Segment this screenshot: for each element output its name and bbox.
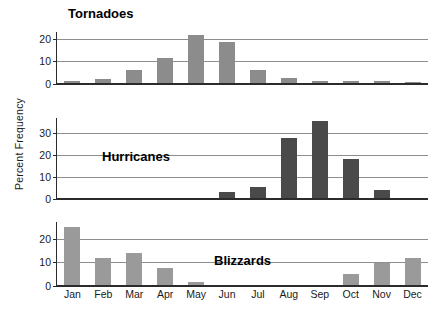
bar-hurricanes-oct xyxy=(343,159,359,200)
x-tick-dec: Dec xyxy=(403,288,422,300)
bar-blizzards-jan xyxy=(64,227,80,286)
baseline-tornadoes xyxy=(57,83,428,85)
bar-tornadoes-jun xyxy=(219,42,235,84)
bar-hurricanes-sep xyxy=(312,121,328,199)
bar-blizzards-nov xyxy=(374,263,390,286)
y-tick-hurricanes-30: 30 xyxy=(17,127,51,139)
y-tick-tornadoes-20: 20 xyxy=(17,33,51,45)
y-tick-blizzards-20: 20 xyxy=(17,233,51,245)
baseline-blizzards xyxy=(57,285,428,287)
y-tick-blizzards-0: 0 xyxy=(17,280,51,292)
bar-tornadoes-jul xyxy=(250,70,266,84)
y-tickmark-hurricanes-10 xyxy=(53,177,57,178)
gridline-hurricanes-10 xyxy=(57,177,428,178)
y-axis-line-tornadoes xyxy=(56,32,57,84)
y-tickmark-tornadoes-10 xyxy=(53,61,57,62)
y-tick-hurricanes-0: 0 xyxy=(17,193,51,205)
panel-title-tornadoes: Tornadoes xyxy=(68,6,134,21)
x-tick-feb: Feb xyxy=(94,288,112,300)
baseline-hurricanes xyxy=(57,198,428,200)
gridline-blizzards-20 xyxy=(57,239,428,240)
bar-blizzards-mar xyxy=(126,253,142,286)
y-axis-label: Percent Frequency xyxy=(13,79,25,209)
x-tick-may: May xyxy=(186,288,206,300)
y-tickmark-blizzards-10 xyxy=(53,262,57,263)
y-tick-blizzards-10: 10 xyxy=(17,256,51,268)
bar-tornadoes-may xyxy=(188,35,204,84)
y-axis-line-hurricanes xyxy=(56,118,57,199)
x-tick-nov: Nov xyxy=(372,288,391,300)
x-tick-sep: Sep xyxy=(310,288,329,300)
y-tickmark-hurricanes-30 xyxy=(53,133,57,134)
y-tickmark-blizzards-20 xyxy=(53,239,57,240)
y-tick-hurricanes-10: 10 xyxy=(17,171,51,183)
bar-tornadoes-mar xyxy=(126,70,142,84)
y-axis-line-blizzards xyxy=(56,222,57,286)
bar-tornadoes-apr xyxy=(157,58,173,84)
x-tick-oct: Oct xyxy=(343,288,359,300)
bar-hurricanes-aug xyxy=(281,138,297,199)
x-tick-mar: Mar xyxy=(125,288,143,300)
bar-blizzards-apr xyxy=(157,268,173,286)
x-tick-jan: Jan xyxy=(64,288,81,300)
x-tick-aug: Aug xyxy=(280,288,299,300)
gridline-tornadoes-10 xyxy=(57,61,428,62)
y-tick-tornadoes-0: 0 xyxy=(17,78,51,90)
panel-title-hurricanes: Hurricanes xyxy=(102,149,170,164)
bar-blizzards-dec xyxy=(405,258,421,286)
x-tick-jun: Jun xyxy=(219,288,236,300)
x-axis-month-labels: JanFebMarAprMayJunJulAugSepOctNovDec xyxy=(57,288,428,310)
y-tickmark-tornadoes-20 xyxy=(53,39,57,40)
plot-area-tornadoes: 01020 xyxy=(57,32,428,84)
y-tick-hurricanes-20: 20 xyxy=(17,149,51,161)
multi-panel-bar-chart: Percent Frequency 01020 Tornadoes 010203… xyxy=(0,0,432,315)
gridline-tornadoes-20 xyxy=(57,39,428,40)
bar-blizzards-feb xyxy=(95,258,111,286)
panel-tornadoes: 01020 xyxy=(57,32,428,84)
gridline-hurricanes-30 xyxy=(57,133,428,134)
y-tick-tornadoes-10: 10 xyxy=(17,55,51,67)
y-tickmark-hurricanes-20 xyxy=(53,155,57,156)
panel-title-blizzards: Blizzards xyxy=(214,253,271,268)
x-tick-apr: Apr xyxy=(157,288,173,300)
x-tick-jul: Jul xyxy=(251,288,264,300)
